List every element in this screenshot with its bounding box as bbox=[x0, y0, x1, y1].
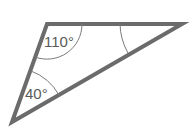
triangle-diagram: 110° 40° bbox=[0, 0, 194, 140]
triangle bbox=[12, 24, 182, 122]
angle-arc-top-right bbox=[120, 24, 128, 53]
angle-label-bottom-left: 40° bbox=[25, 85, 48, 102]
angle-label-top-left: 110° bbox=[44, 33, 74, 50]
